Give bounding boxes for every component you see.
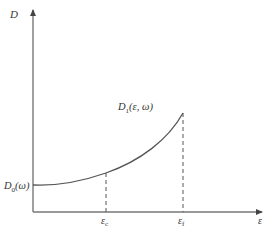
damage-curve-diagram: D D0(ω) D1(ε, ω) εc εf ε — [0, 0, 270, 234]
epsilon-f-label: εf — [178, 215, 185, 228]
curve-end-label: D1(ε, ω) — [117, 101, 153, 115]
y-axis-label: D — [9, 8, 18, 20]
x-axis-label: ε — [258, 215, 262, 226]
curve-start-label: D0(ω) — [3, 180, 30, 194]
damage-curve — [33, 113, 183, 185]
epsilon-c-label: εc — [101, 215, 108, 228]
